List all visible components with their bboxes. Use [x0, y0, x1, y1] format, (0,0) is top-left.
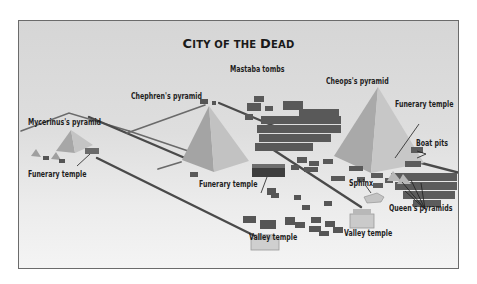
- label-mastaba-tombs: Mastaba tombs: [230, 64, 284, 74]
- label-valley-temple-cheops: Valley temple: [344, 228, 392, 238]
- title-initial-d: D: [260, 36, 271, 51]
- title-initial-c: C: [182, 36, 192, 51]
- label-valley-temple-chephren: Valley temple: [249, 232, 297, 242]
- diagram-title: CITY OF THE DEAD: [19, 36, 458, 51]
- label-queens-pyramids: Queen's pyramids: [389, 203, 452, 213]
- diagram-frame: CITY OF THE DEAD Mastaba tombs Cheops's …: [18, 20, 459, 269]
- title-part-2: EAD: [271, 39, 294, 50]
- label-sphinx: Sphinx: [349, 178, 373, 188]
- label-funerary-temple-mycerinus: Funerary temple: [28, 169, 86, 179]
- title-part-1: ITY OF THE: [192, 39, 260, 50]
- giza-illustration: [19, 21, 459, 269]
- label-funerary-temple-chephren: Funerary temple: [199, 179, 257, 189]
- scattered-tombs: [243, 188, 343, 236]
- label-boat-pits: Boat pits: [416, 138, 448, 148]
- sphinx-shape: [364, 193, 384, 203]
- mycerinus-pyramid-shape: [31, 130, 99, 163]
- label-cheops-pyramid: Cheops's pyramid: [326, 76, 389, 86]
- label-funerary-temple-cheops: Funerary temple: [395, 99, 453, 109]
- label-chephren-pyramid: Chephren's pyramid: [131, 91, 202, 101]
- label-mycerinus-pyramid: Mycerinus's pyramid: [28, 117, 101, 127]
